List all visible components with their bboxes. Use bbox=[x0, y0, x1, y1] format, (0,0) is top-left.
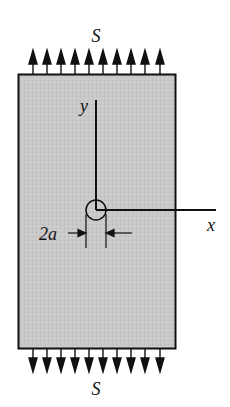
up-arrow-icon bbox=[99, 50, 107, 74]
down-arrow-icon bbox=[57, 348, 65, 372]
up-arrow-icon bbox=[127, 50, 135, 74]
down-arrow-icon bbox=[43, 348, 51, 372]
up-arrow-icon bbox=[113, 50, 121, 74]
down-arrow-icon bbox=[156, 348, 164, 372]
up-arrow-icon bbox=[156, 50, 164, 74]
down-arrow-icon bbox=[29, 348, 37, 372]
down-arrow-icon bbox=[99, 348, 107, 372]
bottom-stress-label: S bbox=[92, 379, 101, 399]
hole-dimension-label: 2a bbox=[39, 224, 57, 244]
up-arrow-icon bbox=[71, 50, 79, 74]
down-arrow-icon bbox=[71, 348, 79, 372]
up-arrow-icon bbox=[43, 50, 51, 74]
plate-diagram: S y x 2a S bbox=[0, 0, 230, 407]
up-arrow-icon bbox=[29, 50, 37, 74]
down-arrow-icon bbox=[113, 348, 121, 372]
down-arrow-icon bbox=[141, 348, 149, 372]
top-stress-label: S bbox=[92, 26, 101, 46]
up-arrow-icon bbox=[85, 50, 93, 74]
bottom-tension-arrows bbox=[29, 348, 164, 372]
up-arrow-icon bbox=[141, 50, 149, 74]
up-arrow-icon bbox=[57, 50, 65, 74]
down-arrow-icon bbox=[85, 348, 93, 372]
down-arrow-icon bbox=[127, 348, 135, 372]
top-tension-arrows bbox=[29, 50, 164, 74]
x-axis-label: x bbox=[206, 215, 215, 235]
y-axis-label: y bbox=[78, 96, 88, 116]
